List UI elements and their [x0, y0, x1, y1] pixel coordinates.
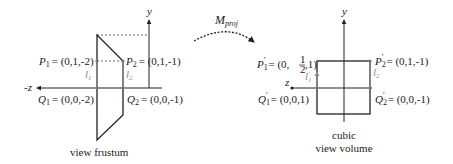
view-frustum-diagram: y -z P1= (0,1,-2) P2= (0,1,-1) l1 l2 Q1=… [24, 5, 183, 158]
cubic-view-volume-diagram: y z P1′= (0, 1 2 ,1) P2′= (0,1,-1) l1′ l… [256, 5, 430, 154]
view-frustum-caption: view frustum [70, 146, 129, 158]
p2-prime-point [368, 59, 371, 62]
q1-prime-label: Q1′= (0,0,1) [258, 91, 309, 107]
y-axis-label-left: y [146, 5, 152, 17]
q1-label: Q1= (0,0,-2) [38, 93, 94, 107]
p2-label: P2= (0,1,-1) [125, 55, 181, 69]
z-axis-origin-dot [290, 86, 293, 89]
p2-point [121, 59, 124, 62]
l1-prime-label: l1′ [305, 70, 312, 84]
z-axis-label-right: z [284, 76, 290, 88]
cubic-caption-line2: view volume [315, 142, 372, 154]
l1-label: l1 [85, 68, 92, 82]
q2-point [122, 87, 125, 90]
projection-transform-arrow: Mproj [194, 13, 254, 42]
q2-prime-point [369, 87, 372, 90]
l2-label: l2 [126, 68, 133, 82]
cubic-caption-line1: cubic [332, 129, 356, 141]
curved-dashed-arrow [194, 32, 254, 42]
q2-label: Q2= (0,0,-1) [127, 93, 183, 107]
projection-diagram: y -z P1= (0,1,-2) P2= (0,1,-1) l1 l2 Q1=… [0, 0, 453, 164]
y-axis-label-right: y [341, 5, 347, 17]
m-proj-label: Mproj [214, 13, 239, 28]
svg-text:P1′= (0,: P1′= (0, [256, 56, 290, 72]
q2-prime-label: Q2′= (0,0,-1) [375, 91, 430, 107]
l2-prime-label: l2′ [373, 66, 380, 80]
z-axis-label-left: -z [24, 81, 33, 93]
p1-label: P1= (0,1,-2) [38, 55, 94, 69]
q1-prime-point [316, 87, 319, 90]
p1-point [95, 59, 98, 62]
p2-prime-label: P2′= (0,1,-1) [374, 53, 429, 69]
q1-point [96, 87, 99, 90]
